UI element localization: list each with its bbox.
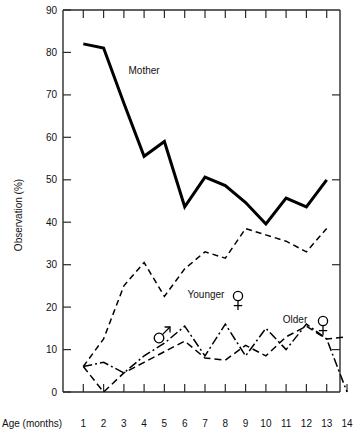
x-tick-labels: 1 2 3 4 5 6 7 8 9 10 11 12 13 14 xyxy=(81,418,353,429)
y-tick-0: 0 xyxy=(51,387,57,398)
y-tick-labels: 0 10 20 30 40 50 60 70 80 90 xyxy=(46,5,58,398)
chart-canvas: 0 10 20 30 40 50 60 70 80 90 1 2 3 4 5 6… xyxy=(0,0,360,434)
x-tick-10: 10 xyxy=(260,418,272,429)
annotation-label-older: Older xyxy=(283,314,308,325)
y-tick-20: 20 xyxy=(46,302,58,313)
y-tick-70: 70 xyxy=(46,89,58,100)
x-tick-9: 9 xyxy=(243,418,249,429)
x-tick-11: 11 xyxy=(281,418,292,429)
series-line-male xyxy=(83,324,347,392)
top-axis-ticks xyxy=(83,10,326,18)
x-tick-3: 3 xyxy=(121,418,127,429)
series-line-mother xyxy=(83,44,326,224)
y-tick-10: 10 xyxy=(46,344,58,355)
x-tick-12: 12 xyxy=(301,418,313,429)
x-tick-5: 5 xyxy=(162,418,168,429)
y-tick-80: 80 xyxy=(46,47,58,58)
x-tick-13: 13 xyxy=(321,418,333,429)
y-tick-30: 30 xyxy=(46,259,58,270)
y-axis-title: Observation (%) xyxy=(13,179,24,251)
x-tick-14: 14 xyxy=(341,418,353,429)
y-tick-50: 50 xyxy=(46,174,58,185)
x-tick-1: 1 xyxy=(81,418,87,429)
x-axis-title: Age (months) xyxy=(2,418,62,429)
chart-figure: 0 10 20 30 40 50 60 70 80 90 1 2 3 4 5 6… xyxy=(0,0,360,434)
x-tick-7: 7 xyxy=(202,418,208,429)
y-tick-60: 60 xyxy=(46,132,58,143)
x-tick-6: 6 xyxy=(182,418,188,429)
x-tick-8: 8 xyxy=(223,418,229,429)
annotation-label-younger: Younger xyxy=(188,289,226,300)
female-symbol-younger-icon xyxy=(233,291,242,310)
y-axis-ticks xyxy=(63,10,71,392)
x-tick-2: 2 xyxy=(101,418,107,429)
y-tick-90: 90 xyxy=(46,5,58,16)
right-axis-ticks xyxy=(332,95,340,350)
x-tick-4: 4 xyxy=(141,418,147,429)
y-tick-40: 40 xyxy=(46,217,58,228)
annotation-label-mother: Mother xyxy=(129,65,161,76)
series-line-older xyxy=(83,326,347,392)
x-axis-ticks xyxy=(83,384,347,392)
female-symbol-older-icon xyxy=(318,316,327,335)
